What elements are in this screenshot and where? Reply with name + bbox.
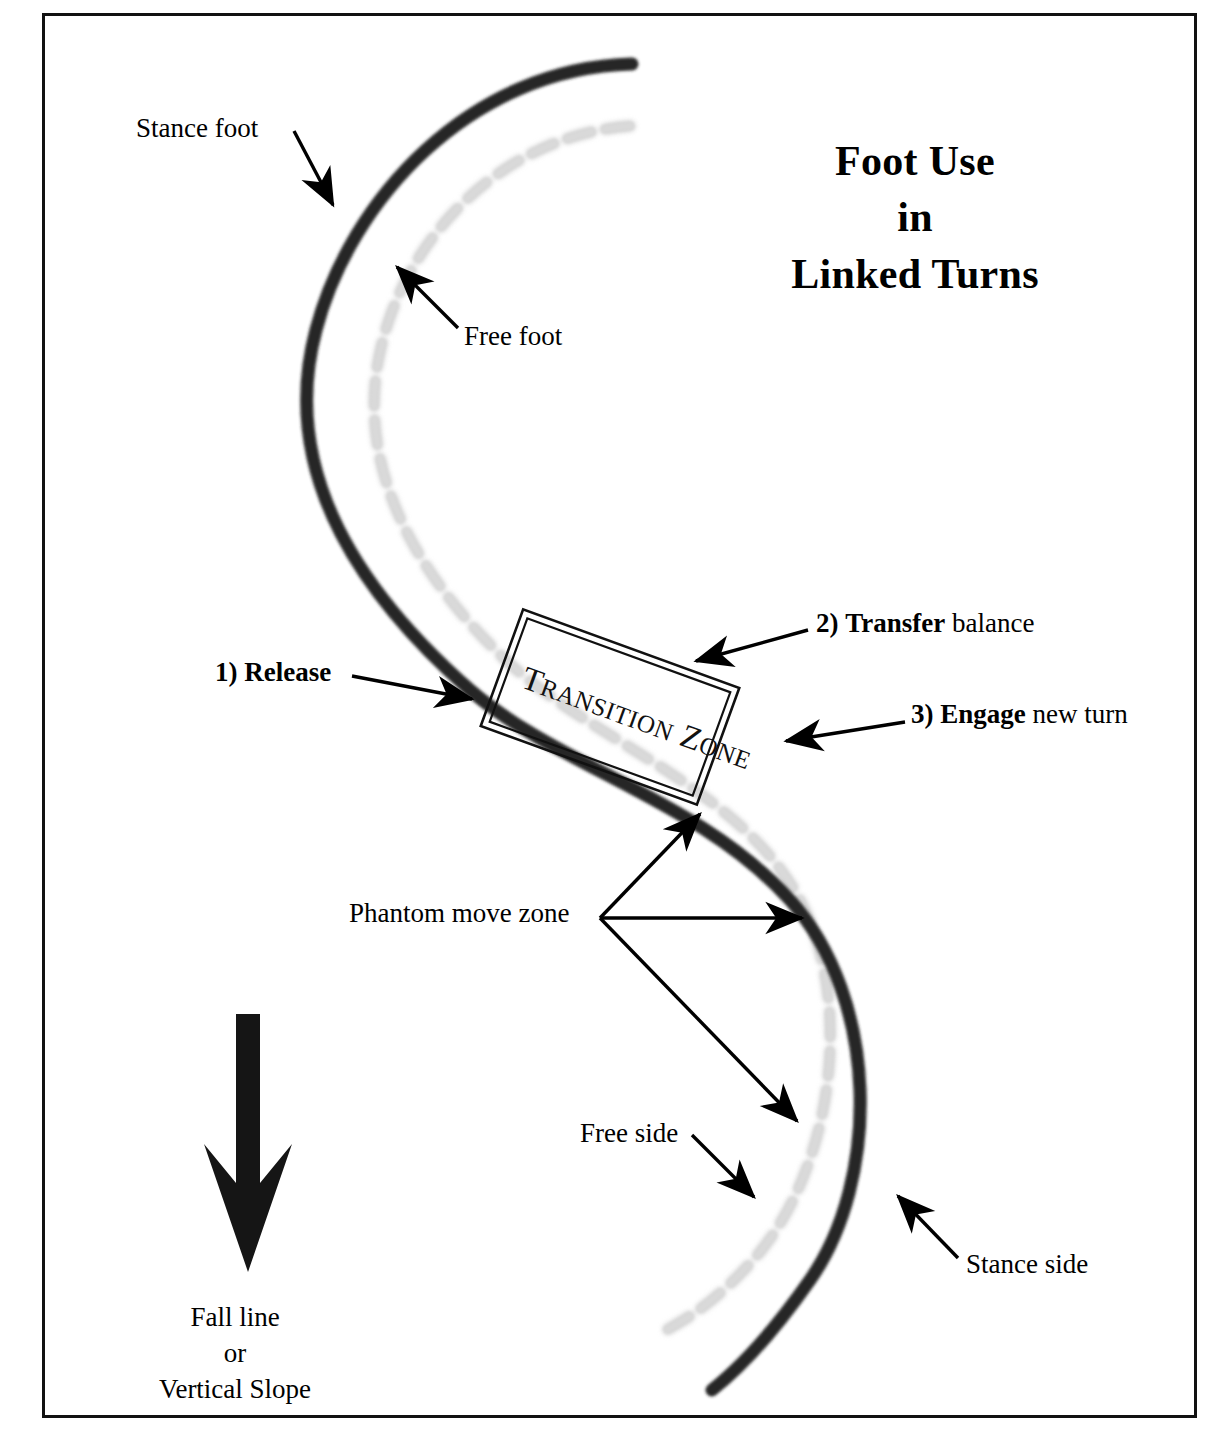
fall-line-1: Fall line (135, 1300, 335, 1336)
label-phantom-move-zone: Phantom move zone (349, 898, 569, 928)
label-free-side: Free side (580, 1118, 678, 1148)
transfer-word: Transfer (845, 608, 945, 638)
release-word: Release (244, 657, 331, 687)
title-line-2: in (740, 189, 1090, 245)
transfer-number: 2) (816, 608, 839, 638)
engage-rest: new turn (1033, 699, 1128, 729)
label-step-2-transfer: 2) Transfer balance (816, 608, 1034, 638)
free-foot-track-core (374, 126, 830, 1331)
label-step-1-release: 1) Release (215, 657, 331, 687)
fall-line-3: Vertical Slope (135, 1372, 335, 1408)
engage-number: 3) (911, 699, 934, 729)
title-line-3: Linked Turns (740, 246, 1090, 302)
label-step-3-engage: 3) Engage new turn (911, 699, 1128, 729)
callout-arrow-transfer (696, 630, 808, 661)
diagram-page: TRANSITION ZONE Foot Use in Linked Turns… (0, 0, 1223, 1450)
callout-arrow-free-side (692, 1135, 754, 1197)
label-stance-side: Stance side (966, 1249, 1088, 1279)
callout-arrow-free-foot (397, 267, 458, 328)
label-free-foot: Free foot (464, 321, 562, 351)
transfer-rest: balance (952, 608, 1034, 638)
callout-arrow-phantom-upper (600, 814, 700, 918)
callout-arrow-phantom-lower (600, 918, 797, 1121)
label-stance-foot: Stance foot (136, 113, 258, 143)
page-title: Foot Use in Linked Turns (740, 133, 1090, 302)
callout-arrow-stance-foot (294, 131, 333, 205)
fall-line-2: or (135, 1336, 335, 1372)
engage-word: Engage (940, 699, 1026, 729)
release-number: 1) (215, 657, 238, 687)
callout-arrow-stance-side (898, 1196, 958, 1258)
title-line-1: Foot Use (740, 133, 1090, 189)
label-fall-line: Fall line or Vertical Slope (135, 1300, 335, 1408)
fall-line-arrow (204, 1014, 292, 1272)
callout-arrow-engage (786, 722, 905, 741)
